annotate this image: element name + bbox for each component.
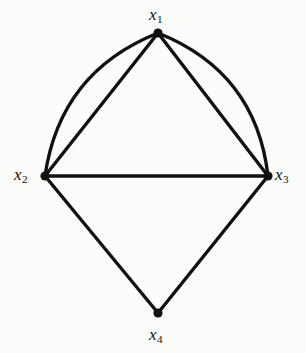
vertex-label-x3: x3 [275, 166, 288, 183]
vertex-x3 [263, 171, 272, 180]
vertex-label-x3-subscript: 3 [283, 173, 289, 185]
edge-x3-x4 [158, 176, 268, 313]
edge-x2-x4 [45, 176, 158, 313]
vertex-label-x2-base: x [14, 165, 22, 184]
edge-x1-x3-straight [158, 33, 268, 176]
vertex-label-x3-base: x [275, 165, 283, 184]
vertex-x4 [153, 308, 162, 317]
vertex-label-x2: x2 [14, 166, 27, 183]
vertex-label-x2-subscript: 2 [22, 173, 28, 185]
vertex-label-x4-base: x [149, 325, 157, 344]
graph-drawing [0, 0, 306, 353]
vertex-x2 [40, 171, 49, 180]
vertex-label-x4: x4 [149, 326, 162, 343]
vertex-label-x1-subscript: 1 [157, 13, 163, 25]
edge-group [45, 33, 268, 313]
edge-x1-x2-straight [45, 33, 158, 176]
vertex-label-x1-base: x [149, 5, 157, 24]
vertex-label-x4-subscript: 4 [157, 333, 163, 345]
vertex-group [40, 28, 272, 317]
figure-canvas: x1 x2 x3 x4 [0, 0, 306, 353]
vertex-x1 [153, 28, 162, 37]
vertex-label-x1: x1 [149, 6, 162, 23]
